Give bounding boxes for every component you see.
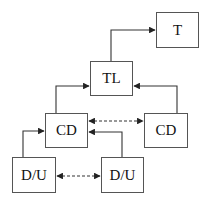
node-label: CD <box>56 122 77 139</box>
edge-cd-right-to-tl <box>134 86 177 113</box>
node-label: D/U <box>110 167 136 184</box>
node-label: T <box>173 22 182 39</box>
node-cd-right: CD <box>144 113 188 148</box>
node-label: CD <box>156 122 177 139</box>
node-t: T <box>156 12 199 48</box>
edge-tl-to-t <box>111 30 155 61</box>
node-cd-left: CD <box>45 113 88 148</box>
node-du-left: D/U <box>12 157 56 193</box>
edge-du-left-to-cd <box>23 131 44 157</box>
edge-cd-left-to-tl <box>56 86 89 113</box>
node-label: D/U <box>21 167 47 184</box>
edge-du-right-to-cd <box>89 132 122 157</box>
node-du-right: D/U <box>101 157 144 193</box>
node-label: TL <box>102 70 120 87</box>
node-tl: TL <box>90 61 133 96</box>
